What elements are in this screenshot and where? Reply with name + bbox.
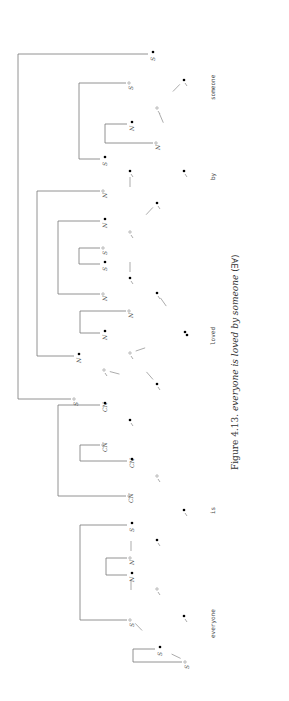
axiom-bracket xyxy=(80,311,126,333)
svg-text:CN: CN xyxy=(101,441,108,452)
leaf-n-positive: N xyxy=(128,121,135,132)
leaf-n-positive: N xyxy=(101,330,108,341)
leaf-n-negative: N xyxy=(101,293,108,302)
svg-text:S: S xyxy=(72,402,79,406)
leaf-s-positive: S xyxy=(128,522,135,532)
link-node xyxy=(129,277,133,284)
tree-edge xyxy=(173,84,180,91)
leaf-s-positive: S xyxy=(101,261,108,271)
svg-text:S: S xyxy=(149,57,156,61)
leaf-n-positive: N xyxy=(101,218,108,229)
leaf-n-negative: N xyxy=(101,190,108,199)
filled-dot-icon xyxy=(78,353,81,356)
leaf-cn-positive: CN xyxy=(128,457,135,468)
leaf-cn-negative: CN xyxy=(101,441,108,452)
link-node xyxy=(183,170,187,177)
leaf-s-negative: S xyxy=(101,247,108,255)
caption-text: Figure 4.13. everyone is loved by someon… xyxy=(230,254,240,470)
word-loved: loved xyxy=(209,327,216,345)
svg-text:S: S xyxy=(156,652,163,656)
svg-text:N: N xyxy=(128,559,135,566)
svg-text:N: N xyxy=(101,222,108,229)
tree-edge xyxy=(136,348,145,351)
svg-text:N: N xyxy=(101,192,108,199)
tree-edge xyxy=(146,372,153,380)
leaf-s-negative: S xyxy=(128,619,135,627)
open-dot-icon xyxy=(102,247,104,249)
tree-edge xyxy=(135,623,142,630)
filled-dot-icon xyxy=(104,402,107,405)
svg-text:N: N xyxy=(75,357,82,364)
link-node xyxy=(129,419,133,426)
open-dot-icon xyxy=(102,190,104,192)
svg-text:N: N xyxy=(154,144,161,151)
leaf-s-positive: S xyxy=(156,646,163,656)
link-node xyxy=(183,615,187,622)
tree-edge xyxy=(172,654,181,658)
link-nodes xyxy=(103,79,189,622)
svg-text:CN: CN xyxy=(127,492,134,503)
tree-edge xyxy=(146,207,153,214)
svg-text:S: S xyxy=(128,623,135,627)
filled-dot-icon xyxy=(104,330,107,333)
filled-dot-icon xyxy=(131,458,134,461)
link-node xyxy=(184,331,189,337)
open-dot-icon xyxy=(128,82,130,84)
tree-edges xyxy=(110,84,181,658)
link-node xyxy=(103,369,107,376)
svg-text:S: S xyxy=(101,267,108,271)
proof-net-svg: SSNNSNNSSNNNNSCNCNCNCNSNNSSS someone by … xyxy=(0,0,289,701)
link-node xyxy=(183,509,187,516)
leaf-s-positive: S xyxy=(101,156,108,166)
tree-edge xyxy=(160,298,166,306)
axiom-bracket xyxy=(80,525,127,620)
word-by: by xyxy=(209,172,217,180)
axiom-bracket xyxy=(79,83,126,159)
filled-dot-icon xyxy=(131,572,134,575)
open-dot-icon xyxy=(128,310,130,312)
word-everyone: everyone xyxy=(209,609,217,638)
leaf-formulas: SSNNSNNSSNNNNSCNCNCNCNSNNSSS xyxy=(72,51,190,669)
filled-dot-icon xyxy=(131,522,134,525)
leaf-n-positive: N xyxy=(75,353,82,364)
svg-text:N: N xyxy=(128,576,135,583)
svg-text:S: S xyxy=(101,251,108,255)
link-node xyxy=(156,383,160,390)
tree-edge xyxy=(110,372,120,375)
leaf-cn-positive: CN xyxy=(101,401,108,412)
axiom-bracket xyxy=(79,248,100,264)
axiom-bracket xyxy=(106,558,127,575)
leaf-s-negative: S xyxy=(127,82,134,90)
svg-text:S: S xyxy=(101,162,108,166)
leaf-s-positive: S xyxy=(149,51,156,61)
caption-sentence: everyone is loved by someone xyxy=(230,275,240,411)
word-someone: someone xyxy=(209,74,216,100)
open-dot-icon xyxy=(184,661,186,663)
svg-text:N: N xyxy=(128,125,135,132)
leaf-s-negative: S xyxy=(72,398,79,406)
link-node xyxy=(156,588,160,595)
link-node xyxy=(156,292,160,299)
svg-text:S: S xyxy=(127,86,134,90)
open-dot-icon xyxy=(155,142,157,144)
leaf-cn-negative: CN xyxy=(127,492,134,503)
link-node xyxy=(129,231,133,238)
proof-net-figure: SSNNSNNSSNNNNSCNCNCNCNSNNSSS someone by … xyxy=(0,0,289,701)
leaf-n-negative: N xyxy=(154,142,161,151)
filled-dot-icon xyxy=(104,218,107,221)
word-labels: someone by loved is everyone xyxy=(209,74,217,638)
filled-dot-icon xyxy=(152,51,155,54)
axiom-bracket xyxy=(58,405,126,496)
axiom-bracket xyxy=(18,54,148,399)
filled-dot-icon xyxy=(131,121,134,124)
leaf-n-negative: N xyxy=(128,557,135,566)
word-is: is xyxy=(209,506,216,514)
filled-dot-icon xyxy=(159,646,162,649)
tree-edge xyxy=(159,114,163,123)
figure-caption: Figure 4.13. everyone is loved by someon… xyxy=(230,254,240,470)
leaf-s-negative: S xyxy=(183,661,190,669)
link-node xyxy=(129,170,133,177)
leaf-n-negative: N xyxy=(127,310,134,319)
leaf-n-positive: N xyxy=(128,572,135,583)
caption-reading: (∃∀) xyxy=(230,254,240,271)
